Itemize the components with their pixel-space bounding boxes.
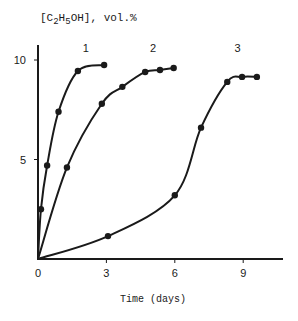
data-point-marker (38, 206, 44, 212)
curve-1 (38, 65, 104, 259)
y-axis-title: [C2H5OH], vol.% (40, 12, 137, 27)
axes (34, 45, 283, 263)
x-axis-title: Time (days) (120, 294, 186, 305)
data-point-marker (105, 233, 111, 239)
curve-2 (38, 68, 174, 259)
data-point-marker (101, 62, 107, 68)
data-point-marker (172, 192, 178, 198)
data-markers (38, 62, 260, 240)
data-point-marker (75, 68, 81, 74)
data-point-marker (170, 65, 176, 71)
chart-canvas: 0369510123 (0, 0, 298, 321)
curve-label-2: 2 (150, 42, 156, 54)
x-tick-label: 0 (35, 267, 41, 279)
curve-3 (38, 77, 257, 259)
y-tick-label: 5 (20, 154, 26, 166)
data-point-marker (64, 164, 70, 170)
data-point-marker (44, 162, 50, 168)
data-point-marker (142, 69, 148, 75)
data-point-marker (239, 74, 245, 80)
data-point-marker (224, 79, 230, 85)
x-tick-label: 6 (172, 267, 178, 279)
data-point-marker (198, 124, 204, 130)
x-tick-label: 9 (240, 267, 246, 279)
x-tick-label: 3 (103, 267, 109, 279)
data-point-marker (55, 109, 61, 115)
curve-label-1: 1 (83, 42, 89, 54)
y-tick-label: 10 (14, 54, 26, 66)
curves (38, 65, 257, 259)
curve-label-3: 3 (234, 42, 240, 54)
data-point-marker (119, 84, 125, 90)
data-point-marker (157, 67, 163, 73)
data-point-marker (99, 101, 105, 107)
data-point-marker (254, 74, 260, 80)
